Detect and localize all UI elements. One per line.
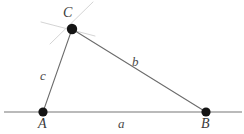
vertex-label-a: A: [38, 117, 47, 131]
side-b-segment: [72, 29, 206, 112]
triangle-sides-group: [43, 29, 206, 112]
vertex-label-c: C: [63, 6, 72, 20]
side-label-b: b: [132, 55, 139, 68]
vertex-dot-c: [67, 24, 77, 34]
triangle-diagram-canvas: [0, 0, 244, 134]
side-label-a: a: [118, 117, 125, 130]
side-c-segment: [43, 29, 72, 112]
vertex-dots-group: [38, 24, 210, 117]
side-label-c: c: [40, 69, 46, 82]
vertex-label-b: B: [201, 117, 210, 131]
geometry-figure: A B C a b c: [0, 0, 244, 134]
